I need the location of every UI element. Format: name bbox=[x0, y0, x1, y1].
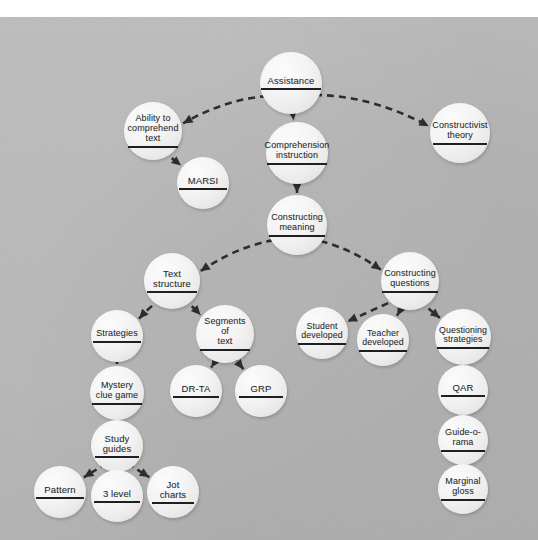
concept-node-marginal_gloss[interactable]: Marginal gloss bbox=[438, 464, 488, 514]
concept-node-study_guides[interactable]: Study guides bbox=[91, 420, 143, 472]
concept-node-pattern[interactable]: Pattern bbox=[34, 466, 86, 518]
concept-node-label: Marginal gloss bbox=[443, 477, 482, 496]
concept-node-comprehension[interactable]: Comprehension instruction bbox=[266, 122, 328, 184]
concept-node-label: Strategies bbox=[94, 329, 140, 339]
concept-node-label: Questioning strategies bbox=[437, 326, 489, 345]
concept-node-student_dev[interactable]: Student developed bbox=[296, 307, 348, 359]
concept-node-label: Teacher developed bbox=[360, 329, 406, 348]
concept-node-strategies[interactable]: Strategies bbox=[91, 310, 143, 362]
concept-node-label: Constructing meaning bbox=[269, 213, 325, 232]
concept-node-underline bbox=[269, 235, 325, 237]
concept-node-underline bbox=[92, 403, 142, 405]
concept-node-label: Jot charts bbox=[158, 480, 188, 501]
concept-node-label: Guide-o- rama bbox=[443, 428, 483, 447]
concept-node-underline bbox=[147, 291, 197, 293]
page-top-margin bbox=[0, 0, 538, 17]
concept-node-ability[interactable]: Ability to comprehend text bbox=[124, 102, 182, 160]
concept-node-label: Constructivist theory bbox=[430, 121, 489, 140]
concept-node-underline bbox=[95, 456, 139, 458]
concept-node-underline bbox=[441, 499, 485, 501]
concept-node-drta[interactable]: DR-TA bbox=[170, 365, 222, 417]
concept-node-underline bbox=[200, 349, 250, 351]
concept-node-jot_charts[interactable]: Jot charts bbox=[147, 466, 199, 518]
concept-node-questioning[interactable]: Questioning strategies bbox=[435, 309, 491, 365]
concept-node-three_level[interactable]: 3 level bbox=[91, 470, 143, 522]
concept-node-text_structure[interactable]: Text structure bbox=[144, 253, 200, 309]
concept-node-constructing_mean[interactable]: Constructing meaning bbox=[267, 195, 327, 255]
concept-node-guide_o_rama[interactable]: Guide-o- rama bbox=[438, 415, 488, 465]
concept-node-label: GRP bbox=[249, 384, 274, 394]
concept-node-label: DR-TA bbox=[180, 384, 213, 394]
concept-node-label: Study guides bbox=[101, 434, 134, 455]
concept-node-underline bbox=[382, 291, 438, 293]
concept-node-underline bbox=[128, 146, 178, 148]
concept-node-assistance[interactable]: Assistance bbox=[260, 52, 322, 114]
concept-node-label: MARSI bbox=[186, 176, 221, 186]
concept-node-label: Assistance bbox=[266, 76, 317, 86]
concept-node-underline bbox=[36, 497, 84, 499]
concept-node-label: Text structure bbox=[151, 269, 193, 290]
concept-node-underline bbox=[441, 395, 485, 397]
concept-node-marsi[interactable]: MARSI bbox=[177, 157, 229, 209]
concept-node-underline bbox=[94, 501, 140, 503]
concept-node-label: Ability to comprehend text bbox=[125, 114, 180, 143]
concept-node-constructivist[interactable]: Constructivist theory bbox=[430, 103, 490, 163]
concept-node-label: Constructing questions bbox=[382, 269, 438, 288]
concept-node-underline bbox=[267, 163, 327, 165]
concept-node-label: Mystery clue game bbox=[94, 381, 140, 400]
concept-node-underline bbox=[93, 341, 141, 343]
concept-map-canvas: AssistanceAbility to comprehend textMARS… bbox=[0, 0, 538, 540]
concept-node-label: Pattern bbox=[42, 485, 77, 495]
concept-node-label: Segments of text bbox=[202, 317, 247, 346]
concept-node-label: Comprehension instruction bbox=[263, 141, 332, 160]
concept-node-underline bbox=[298, 343, 346, 345]
concept-node-underline bbox=[261, 88, 321, 90]
concept-node-underline bbox=[433, 143, 487, 145]
concept-node-underline bbox=[359, 350, 407, 352]
concept-node-grp[interactable]: GRP bbox=[235, 365, 287, 417]
concept-node-label: 3 level bbox=[101, 489, 133, 499]
concept-node-label: QAR bbox=[451, 383, 476, 393]
concept-node-label: Student developed bbox=[299, 322, 345, 341]
concept-node-constructing_q[interactable]: Constructing questions bbox=[381, 252, 439, 310]
concept-node-underline bbox=[437, 347, 489, 349]
concept-node-mystery[interactable]: Mystery clue game bbox=[90, 366, 144, 420]
concept-node-underline bbox=[179, 188, 227, 190]
concept-node-underline bbox=[152, 502, 194, 504]
concept-node-underline bbox=[441, 450, 485, 452]
concept-node-qar[interactable]: QAR bbox=[438, 365, 488, 415]
concept-node-segments[interactable]: Segments of text bbox=[196, 305, 254, 363]
concept-node-teacher_dev[interactable]: Teacher developed bbox=[357, 314, 409, 366]
concept-node-underline bbox=[239, 396, 283, 398]
concept-node-underline bbox=[173, 396, 219, 398]
